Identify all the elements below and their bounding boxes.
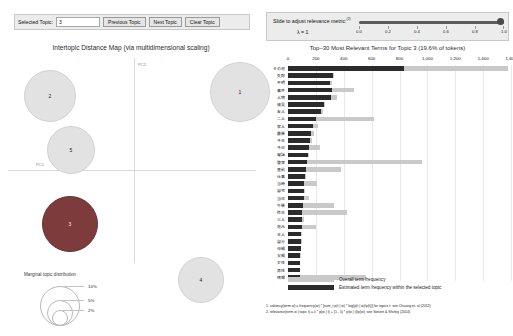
topic-frequency-bar xyxy=(288,225,302,230)
term-bar-row[interactable]: 地元 xyxy=(262,223,513,230)
term-bar-row[interactable]: 今日 xyxy=(262,144,513,151)
x-tick-label: 1,600 xyxy=(506,56,513,61)
topic-frequency-bar xyxy=(288,261,300,266)
term-bar-row[interactable]: 家人 xyxy=(262,123,513,130)
topic-bubble-3[interactable]: 3 xyxy=(42,196,98,252)
selected-topic-input[interactable] xyxy=(56,17,100,27)
relevance-slider[interactable]: 0.00.20.40.60.81.0 xyxy=(359,17,504,39)
term-label: 事件 xyxy=(262,88,285,93)
term-label: 当日 xyxy=(262,196,285,201)
term-bar-row[interactable]: 電話 xyxy=(262,151,513,158)
legend-entry-overall: Overall term frequency xyxy=(288,276,385,282)
topic-frequency-bar xyxy=(288,95,331,100)
ldavis-app: Selected Topic: Previous Topic Next Topi… xyxy=(0,0,513,336)
pc1-axis-line xyxy=(8,170,256,171)
topic-frequency-bar xyxy=(288,181,304,186)
term-label: 直前 xyxy=(262,167,285,172)
lambda-value-label: λ = 1 xyxy=(297,29,308,35)
term-bar-row[interactable]: 当時 xyxy=(262,180,513,187)
bar-plot-area: その他失踪不明事件人物発見友人二人家人最後今年今日電話警察直前仕事当時自宅当日午… xyxy=(262,65,513,281)
topic-bubble-label: 4 xyxy=(200,277,203,283)
term-bar-row[interactable]: 自分 xyxy=(262,238,513,245)
legend-swatch xyxy=(288,277,334,282)
term-bar-row[interactable]: 最後 xyxy=(262,130,513,137)
term-bar-row[interactable]: 当日 xyxy=(262,195,513,202)
next-topic-button[interactable]: Next Topic xyxy=(149,17,182,27)
previous-topic-button[interactable]: Previous Topic xyxy=(103,17,145,27)
pc1-axis-label: PC1 xyxy=(36,162,44,167)
slider-track[interactable] xyxy=(359,21,504,24)
term-bar-row[interactable]: 失踪 xyxy=(262,72,513,79)
term-bar-row[interactable]: 昨年 xyxy=(262,209,513,216)
term-label: 警察 xyxy=(262,160,285,165)
topic-frequency-bar xyxy=(288,131,311,136)
term-label: 発見 xyxy=(262,102,285,107)
term-bar-row[interactable]: 人物 xyxy=(262,94,513,101)
term-bar-row[interactable]: 発見 xyxy=(262,101,513,108)
relevance-slider-bar: Slide to adjust relevance metric:(2) λ =… xyxy=(266,12,509,41)
clear-topic-button[interactable]: Clear Topic xyxy=(185,17,220,27)
footnote-2: 2. relevance(term w | topic t) = λ * p(w… xyxy=(266,309,512,315)
topic-frequency-bar xyxy=(288,109,321,114)
topic-bubble-1[interactable]: 1 xyxy=(210,62,270,122)
term-label: 仕事 xyxy=(262,174,285,179)
intertopic-scatter-plot[interactable]: PC2 PC1 12534 xyxy=(8,58,256,263)
topic-bubble-4[interactable]: 4 xyxy=(178,257,224,303)
topic-bubble-label: 3 xyxy=(69,221,72,227)
term-label: 友人 xyxy=(262,109,285,114)
term-bar-row[interactable]: 女性 xyxy=(262,259,513,266)
term-label: 自分 xyxy=(262,239,285,244)
slider-tick-label: 1.0 xyxy=(501,29,507,34)
term-bar-row[interactable]: 父親 xyxy=(262,252,513,259)
term-label: 本人 xyxy=(262,232,285,237)
relevance-metric-text: Slide to adjust relevance metric: xyxy=(273,18,347,24)
topic-bubble-label: 1 xyxy=(239,89,242,95)
term-frequency-panel: Slide to adjust relevance metric:(2) λ =… xyxy=(262,0,513,336)
topic-frequency-bar xyxy=(288,73,333,78)
x-tick-label: 1,400 xyxy=(478,56,489,61)
topic-frequency-bar xyxy=(288,196,304,201)
legend-entry-topic: Estimated term frequency within the sele… xyxy=(288,284,441,290)
term-bar-row[interactable]: 今年 xyxy=(262,137,513,144)
topic-frequency-bar xyxy=(288,117,316,122)
term-label: 当時 xyxy=(262,181,285,186)
topic-bubble-2[interactable]: 2 xyxy=(24,70,76,122)
term-bar-row[interactable]: 男性 xyxy=(262,267,513,274)
x-tick-label: 400 xyxy=(340,56,347,61)
term-bar-row[interactable]: 仕事 xyxy=(262,173,513,180)
topic-frequency-bar xyxy=(288,153,308,158)
term-bar-row[interactable]: 直前 xyxy=(262,166,513,173)
term-bar-row[interactable]: 友人 xyxy=(262,108,513,115)
term-bar-row[interactable]: 二人 xyxy=(262,115,513,122)
slider-handle[interactable] xyxy=(497,18,504,25)
term-bar-row[interactable]: その他 xyxy=(262,65,513,72)
slider-tick-label: 0.2 xyxy=(385,29,391,34)
term-bar-chart: 02004006008001,0001,2001,4001,600 その他失踪不… xyxy=(262,56,513,306)
relevance-metric-label: Slide to adjust relevance metric:(2) xyxy=(273,17,351,24)
term-bar-row[interactable]: 三人 xyxy=(262,216,513,223)
topic-frequency-bar xyxy=(288,145,309,150)
marginal-legend-title: Marginal topic distribution xyxy=(24,272,76,277)
x-tick-label: 600 xyxy=(368,56,375,61)
topic-frequency-bar xyxy=(288,210,302,215)
term-bar-row[interactable]: 本人 xyxy=(262,231,513,238)
term-bar-row[interactable]: 警察 xyxy=(262,159,513,166)
topic-frequency-bar xyxy=(288,160,307,165)
legend-label: Estimated term frequency within the sele… xyxy=(339,285,441,290)
topic-frequency-bar xyxy=(288,138,310,143)
term-bar-row[interactable]: 不明 xyxy=(262,79,513,86)
term-bar-row[interactable]: 午後 xyxy=(262,202,513,209)
term-label: 地元 xyxy=(262,224,285,229)
term-label: 今年 xyxy=(262,138,285,143)
term-label: 失踪 xyxy=(262,73,285,78)
topic-frequency-bar xyxy=(288,239,301,244)
term-bar-row[interactable]: 自宅 xyxy=(262,187,513,194)
term-label: 昨年 xyxy=(262,210,285,215)
topic-frequency-bar xyxy=(288,124,313,129)
x-tick-label: 800 xyxy=(396,56,403,61)
topic-bubble-5[interactable]: 5 xyxy=(47,126,95,174)
term-bar-row[interactable]: 母親 xyxy=(262,245,513,252)
topic-frequency-bar xyxy=(288,232,301,237)
term-bar-row[interactable]: 事件 xyxy=(262,87,513,94)
selected-topic-label: Selected Topic: xyxy=(18,19,53,25)
